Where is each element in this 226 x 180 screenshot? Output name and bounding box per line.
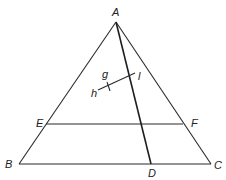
label-f: F — [191, 117, 199, 129]
side-ab — [19, 22, 116, 164]
segment-ad — [116, 22, 151, 164]
label-l: l — [138, 70, 141, 82]
label-g: g — [102, 68, 109, 80]
label-c: C — [214, 159, 222, 171]
label-h: h — [91, 87, 97, 99]
label-e: E — [36, 117, 44, 129]
label-a: A — [111, 6, 119, 18]
label-d: D — [148, 167, 156, 179]
side-ac — [116, 22, 211, 164]
label-b: B — [5, 158, 12, 170]
tick-mark-g — [107, 82, 110, 91]
geometry-diagram: A B C D E F g h l — [0, 0, 226, 180]
